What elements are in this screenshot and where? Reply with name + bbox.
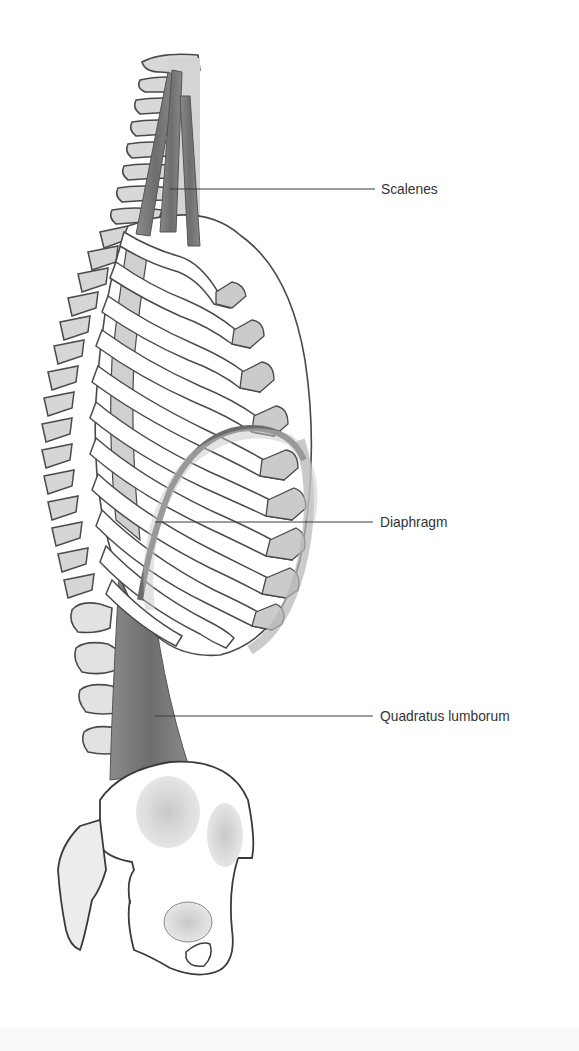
pelvis	[58, 762, 253, 975]
footer-band	[0, 1028, 579, 1051]
label-quadratus-lumborum: Quadratus lumborum	[380, 707, 510, 725]
sacrum	[58, 820, 106, 950]
scalenes-muscle	[136, 70, 200, 246]
label-scalenes: Scalenes	[381, 180, 438, 198]
anatomy-illustration	[0, 0, 579, 1051]
label-diaphragm: Diaphragm	[380, 513, 448, 531]
